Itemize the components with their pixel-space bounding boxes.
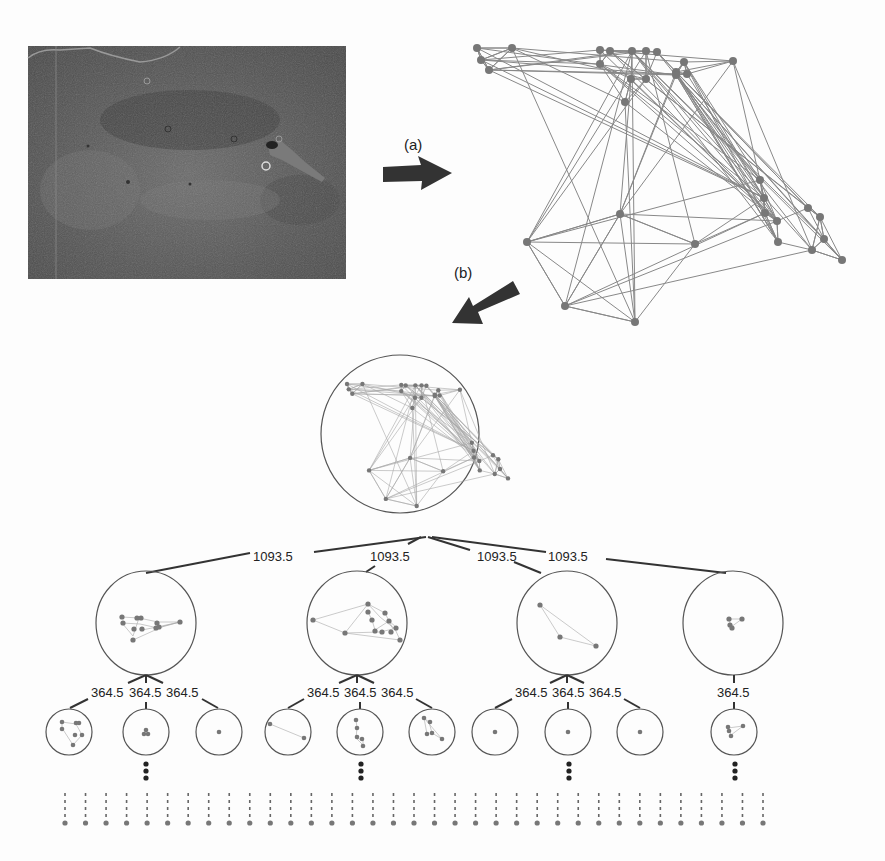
edge-weight-label: 364.5 bbox=[91, 685, 124, 700]
leaf-node bbox=[740, 820, 745, 825]
leaf-node bbox=[760, 820, 765, 825]
leaf-node bbox=[165, 820, 170, 825]
cluster-3-subgraph bbox=[537, 602, 598, 648]
cluster-3 bbox=[517, 571, 617, 675]
leaf-node bbox=[62, 820, 67, 825]
root-subgraph bbox=[345, 382, 510, 508]
leaf-node bbox=[227, 820, 232, 825]
ellipsis-vertical-icon bbox=[143, 761, 148, 780]
edge-weight-label: 1093.5 bbox=[548, 549, 588, 564]
edge-weight-label: 1093.5 bbox=[477, 549, 517, 564]
continuation-markers bbox=[143, 761, 737, 780]
leaf-node bbox=[555, 820, 560, 825]
leaf-node bbox=[350, 820, 355, 825]
leaf-node bbox=[391, 820, 396, 825]
cell-graph bbox=[473, 44, 846, 326]
leaf-node bbox=[83, 820, 88, 825]
leaf-node bbox=[494, 820, 499, 825]
cluster-4-subgraph bbox=[726, 616, 744, 630]
leaf-node bbox=[145, 820, 150, 825]
arrow-a: (a) bbox=[383, 136, 452, 190]
ellipsis-vertical-icon bbox=[732, 761, 737, 780]
tree-root-node bbox=[321, 355, 510, 513]
leaf-node bbox=[658, 820, 663, 825]
leaf-node bbox=[288, 820, 293, 825]
tree-level2-nodes bbox=[46, 709, 757, 755]
figure-canvas: (a) (b) 1093.5 1093.5 1093.5 1093.5 bbox=[0, 0, 885, 861]
leaf-node bbox=[678, 820, 683, 825]
tree-level1-edges: 1093.5 1093.5 1093.5 1093.5 bbox=[146, 537, 726, 573]
edge-weight-label: 364.5 bbox=[717, 685, 750, 700]
edge-weight-label: 1093.5 bbox=[253, 549, 293, 564]
cluster-2-subgraph bbox=[310, 601, 402, 642]
arrow-b-label: (b) bbox=[454, 264, 472, 281]
edge-weight-label: 364.5 bbox=[515, 685, 548, 700]
leaf-node bbox=[596, 820, 601, 825]
edge-weight-label: 364.5 bbox=[166, 685, 199, 700]
edge-weight-label: 1093.5 bbox=[370, 549, 410, 564]
edge-weight-label: 364.5 bbox=[552, 685, 585, 700]
edge-weight-label: 364.5 bbox=[589, 685, 622, 700]
cluster-2 bbox=[307, 571, 407, 675]
cell-microscopy-image bbox=[28, 46, 346, 279]
leaf-node bbox=[329, 820, 334, 825]
leaf-node bbox=[309, 820, 314, 825]
right-arrow-icon bbox=[383, 156, 452, 190]
leaf-node bbox=[268, 820, 273, 825]
tree-level1-nodes bbox=[96, 571, 783, 675]
leaf-node bbox=[370, 820, 375, 825]
ellipsis-vertical-icon bbox=[566, 761, 571, 780]
cluster-1-subgraph bbox=[119, 614, 182, 642]
leaf-node bbox=[247, 820, 252, 825]
leaf-node bbox=[103, 820, 108, 825]
tree-level2-edges: 364.5 364.5 364.5 364.5 364.5 364.5 364.… bbox=[70, 675, 750, 709]
leaf-node bbox=[452, 820, 457, 825]
leaf-node bbox=[637, 820, 642, 825]
leaf-node bbox=[411, 820, 416, 825]
leaf-node bbox=[719, 820, 724, 825]
leaf-node bbox=[514, 820, 519, 825]
leaf-node bbox=[473, 820, 478, 825]
down-left-arrow-icon bbox=[452, 281, 520, 324]
leaf-node bbox=[206, 820, 211, 825]
leaf-node bbox=[535, 820, 540, 825]
edge-weight-label: 364.5 bbox=[129, 685, 162, 700]
arrow-a-label: (a) bbox=[404, 136, 422, 153]
ellipsis-vertical-icon bbox=[358, 761, 363, 780]
leaf-node bbox=[576, 820, 581, 825]
edge-weight-label: 364.5 bbox=[307, 685, 340, 700]
leaf-nodes-row bbox=[62, 793, 765, 826]
leaf-node bbox=[432, 820, 437, 825]
leaf-node bbox=[617, 820, 622, 825]
edge-weight-label: 364.5 bbox=[344, 685, 377, 700]
arrow-b: (b) bbox=[452, 264, 520, 324]
leaf-node bbox=[699, 820, 704, 825]
cluster-4 bbox=[683, 571, 783, 675]
leaf-node bbox=[124, 820, 129, 825]
leaf-node bbox=[186, 820, 191, 825]
edge-weight-label: 364.5 bbox=[381, 685, 414, 700]
